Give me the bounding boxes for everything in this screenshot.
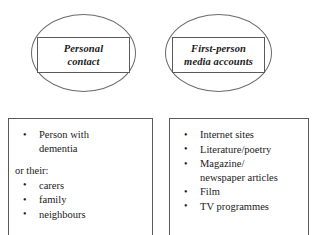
node-first-person-media-accounts-label-line-1: First-person [184,42,253,55]
node-first-person-media-accounts: First-person media accounts [165,14,272,92]
detail-box-first-person-media-accounts: Internet sites Literature/poetry Magazin… [169,118,309,235]
list-item: Magazine/ newspaper articles [174,157,304,184]
list-item: neighbours [13,208,148,222]
list-item-line: Internet sites [200,128,304,142]
node-first-person-media-accounts-label-line-2: media accounts [184,55,253,68]
node-first-person-media-accounts-label: First-person media accounts [172,37,265,73]
list-item-line: Person with [39,128,148,142]
node-personal-contact-label-line-2: contact [64,55,103,68]
list-item: carers [13,179,148,193]
detail-box-content: Person with dementia or their: carers fa… [9,119,152,221]
detail-box-content: Internet sites Literature/poetry Magazin… [170,119,308,213]
list-item-line: dementia [39,142,148,156]
bullet-list-personal-contact-sub: carers family neighbours [13,179,148,222]
node-personal-contact-label: Personal contact [37,37,130,73]
bullet-list-media-accounts: Internet sites Literature/poetry Magazin… [174,128,304,213]
node-personal-contact: Personal contact [31,14,136,92]
list-item: TV programmes [174,200,304,214]
bullet-list-personal-contact: Person with dementia [13,128,148,155]
list-item-line: family [39,193,148,207]
list-item-line: TV programmes [200,200,304,214]
list-item-line: Film [200,185,304,199]
list-item-line: carers [39,179,148,193]
list-item: Person with dementia [13,128,148,155]
list-item: Literature/poetry [174,143,304,157]
detail-box-personal-contact: Person with dementia or their: carers fa… [8,118,153,235]
diagram-canvas: Personal contact First-person media acco… [0,0,316,235]
sublist-intro-text: or their: [15,164,148,178]
list-item: Film [174,185,304,199]
list-item-line: neighbours [39,208,148,222]
list-item: Internet sites [174,128,304,142]
list-item: family [13,193,148,207]
node-personal-contact-label-line-1: Personal [64,42,103,55]
list-item-line: newspaper articles [200,171,304,185]
list-item-line: Literature/poetry [200,143,304,157]
list-item-line: Magazine/ [200,157,304,171]
